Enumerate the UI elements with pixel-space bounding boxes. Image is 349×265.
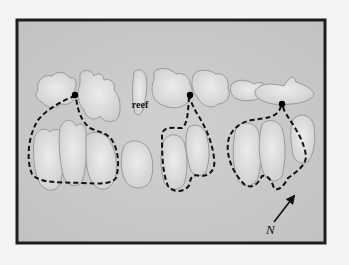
north-label: N xyxy=(265,222,276,237)
reef-patch xyxy=(59,120,87,185)
territory-1-marker xyxy=(72,92,78,98)
reef-patch xyxy=(121,141,153,188)
reef-label: reef xyxy=(132,99,149,110)
reef-territory-map: reef N xyxy=(0,0,349,265)
reef-patch xyxy=(291,115,315,163)
territory-3-marker xyxy=(279,101,285,107)
territory-2-marker xyxy=(187,92,193,98)
reef-patch xyxy=(161,135,187,189)
reef-patch xyxy=(36,72,76,107)
reef-patch xyxy=(259,121,285,182)
